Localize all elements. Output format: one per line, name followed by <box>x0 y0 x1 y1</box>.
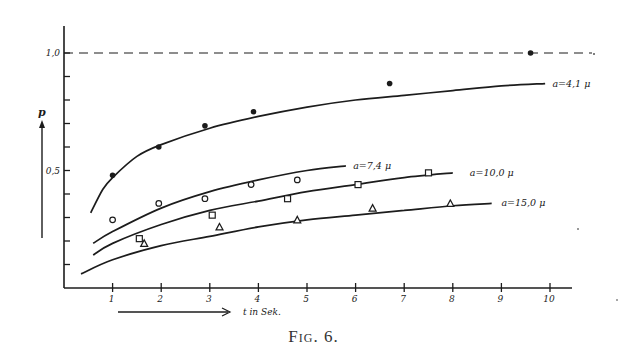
marker-filled-circle <box>156 144 162 150</box>
marker-open-circle <box>248 182 254 188</box>
scan-speck <box>593 53 595 55</box>
x-tick-label: 1 <box>109 294 115 304</box>
marker-open-square <box>136 236 142 242</box>
marker-open-triangle <box>369 205 376 212</box>
series-label: a=7,4 μ <box>353 160 391 171</box>
marker-open-circle <box>156 201 162 207</box>
x-tick-label: 9 <box>498 294 504 304</box>
scan-speck <box>616 299 618 301</box>
y-axis-label: p <box>38 106 46 119</box>
figure-caption: Fig. 6. <box>0 327 627 347</box>
x-tick-label: 4 <box>254 294 261 304</box>
arrow-up-icon <box>39 120 45 128</box>
marker-filled-circle <box>528 50 534 56</box>
axes: 123456789101,00,5 <box>46 26 572 304</box>
marker-open-triangle <box>294 216 301 223</box>
x-tick-label: 6 <box>352 294 358 304</box>
marker-filled-circle <box>110 172 116 178</box>
marker-filled-circle <box>387 81 393 87</box>
x-tick-label: 5 <box>303 294 309 304</box>
series-label: a=10,0 μ <box>470 167 514 178</box>
x-axis-label: t in Sek. <box>243 307 281 317</box>
axis-labels: pt in Sek. <box>38 53 618 317</box>
marker-filled-circle <box>202 123 208 129</box>
scan-speck <box>577 228 579 230</box>
data-points <box>110 50 534 246</box>
curve-2 <box>93 166 346 244</box>
x-tick-label: 3 <box>206 294 212 304</box>
marker-open-square <box>426 170 432 176</box>
marker-open-triangle <box>447 200 454 207</box>
marker-open-square <box>355 182 361 188</box>
fitted-curves <box>81 84 545 274</box>
marker-open-circle <box>202 196 208 202</box>
marker-open-circle <box>294 177 300 183</box>
x-tick-label: 8 <box>449 294 455 304</box>
marker-filled-circle <box>251 109 257 115</box>
marker-open-circle <box>110 217 116 223</box>
y-tick-label: 1,0 <box>46 48 61 58</box>
series-label: a=4,1 μ <box>552 78 590 89</box>
x-tick-label: 7 <box>400 294 406 304</box>
series-label: a=15,0 μ <box>501 197 545 208</box>
x-tick-label: 10 <box>543 294 555 304</box>
x-tick-label: 2 <box>156 294 163 304</box>
chart: 123456789101,00,5 a=4,1 μa=7,4 μa=10,0 μ… <box>0 0 627 330</box>
y-tick-label: 0,5 <box>46 166 61 176</box>
marker-open-square <box>285 196 291 202</box>
marker-open-triangle <box>216 223 223 230</box>
marker-open-square <box>209 212 215 218</box>
